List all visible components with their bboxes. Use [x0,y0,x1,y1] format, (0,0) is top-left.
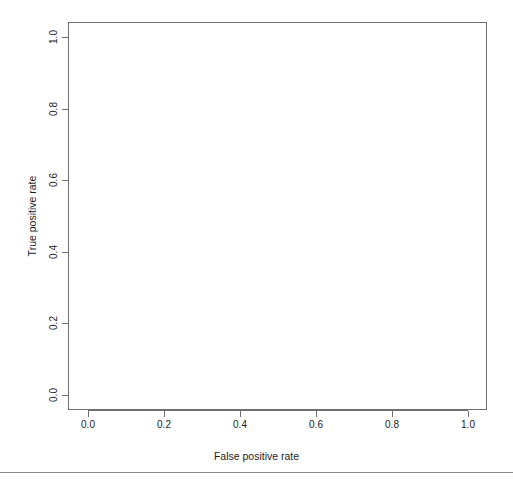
y-tick-mark [62,109,68,110]
y-axis-title: True positive rate [26,116,38,316]
y-tick-label: 0.2 [48,316,59,330]
plot-frame [68,22,487,410]
y-tick-label: 0.0 [48,388,59,402]
x-tick-label: 0.4 [233,419,247,430]
x-tick-label: 0.0 [81,419,95,430]
x-tick-mark [164,411,165,417]
x-tick-mark [392,411,393,417]
x-tick-mark [468,411,469,417]
y-axis-line [68,37,69,395]
y-tick-label: 0.6 [48,173,59,187]
x-tick-mark [316,411,317,417]
x-axis-title: False positive rate [0,450,513,462]
x-tick-mark [240,411,241,417]
y-tick-mark [62,395,68,396]
bottom-divider [0,472,513,473]
y-tick-label: 1.0 [48,30,59,44]
x-tick-mark [88,411,89,417]
y-tick-mark [62,37,68,38]
x-tick-label: 1.0 [461,419,475,430]
y-tick-mark [62,180,68,181]
y-tick-mark [62,252,68,253]
y-tick-label: 0.8 [48,102,59,116]
x-axis-line [88,410,468,411]
y-tick-label: 0.4 [48,245,59,259]
x-tick-label: 0.8 [385,419,399,430]
roc-plot-figure: 0.0 0.2 0.4 0.6 0.8 1.0 0.0 0.2 0.4 0.6 … [0,0,513,487]
x-tick-label: 0.2 [157,419,171,430]
y-tick-mark [62,323,68,324]
x-tick-label: 0.6 [309,419,323,430]
